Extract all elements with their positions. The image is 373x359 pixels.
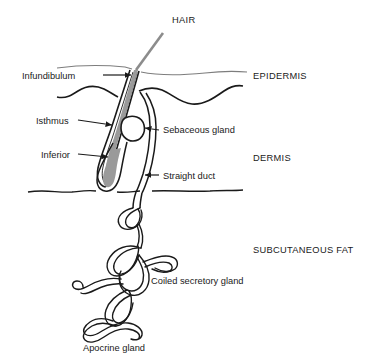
label-hair: HAIR bbox=[172, 15, 195, 25]
label-straight-duct: Straight duct bbox=[163, 171, 216, 181]
label-dermis: DERMIS bbox=[253, 153, 291, 163]
label-epidermis: EPIDERMIS bbox=[253, 71, 307, 81]
label-infundibulum: Infundibulum bbox=[22, 71, 75, 81]
sebaceous-gland-shape bbox=[121, 116, 144, 141]
label-subcutaneous-fat: SUBCUTANEOUS FAT bbox=[253, 245, 354, 255]
label-sebaceous-gland: Sebaceous gland bbox=[163, 125, 235, 135]
label-isthmus: Isthmus bbox=[36, 116, 69, 126]
anatomical-diagram: HAIR Infundibulum Isthmus Inferior Sebac… bbox=[0, 0, 373, 359]
label-apocrine-gland: Apocrine gland bbox=[83, 343, 145, 353]
label-coiled-secretory-gland: Coiled secretory gland bbox=[151, 276, 244, 286]
label-inferior: Inferior bbox=[41, 150, 70, 160]
